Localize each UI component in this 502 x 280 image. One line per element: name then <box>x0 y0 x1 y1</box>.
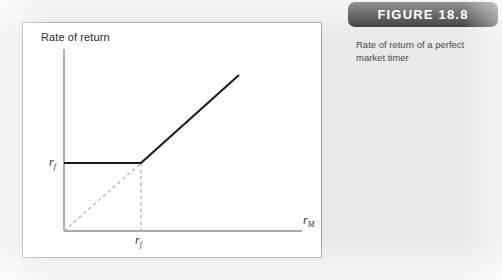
x-axis-tick-rf-subscript: f <box>140 240 142 249</box>
x-axis-tick-rf: rf <box>135 233 142 249</box>
y-axis-tick-rf-subscript: f <box>54 162 56 171</box>
y-axis-tick-rf: rf <box>49 155 56 171</box>
reference-45-degree-line <box>64 163 141 231</box>
figure-caption: Rate of return of a perfect market timer <box>356 38 492 64</box>
x-axis-label-rm: rM <box>303 213 314 229</box>
plot-area <box>23 23 323 259</box>
chart-panel: Rate of return rf rf rM <box>22 22 322 258</box>
figure-number-label: FIGURE 18.8 <box>377 7 468 22</box>
market-timer-return-line <box>64 75 239 163</box>
x-axis-label-rm-subscript: M <box>308 220 315 229</box>
figure-number-badge: FIGURE 18.8 <box>348 2 498 27</box>
figure-screenshot: Rate of return rf rf rM FIGURE 18.8 <box>0 0 502 280</box>
